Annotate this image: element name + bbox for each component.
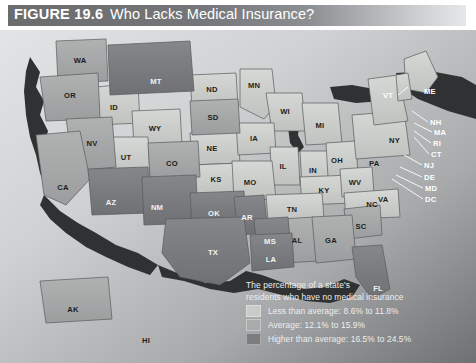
legend-entries: Less than average: 8.6% to 11.8%Average:… xyxy=(246,305,472,345)
map-legend: The percentage of a state's residents wh… xyxy=(246,280,472,345)
figure-container: FIGURE 19.6 Who Lacks Medical Insurance? xyxy=(0,0,476,363)
legend-swatch xyxy=(246,305,261,317)
legend-entry: Less than average: 8.6% to 11.8% xyxy=(246,305,472,317)
figure-number: FIGURE 19.6 xyxy=(14,6,103,22)
legend-label: Average: 12.1% to 15.9% xyxy=(268,320,365,330)
legend-swatch xyxy=(246,333,261,345)
legend-caption-line-1: The percentage of a state's xyxy=(246,280,472,292)
legend-entry: Average: 12.1% to 15.9% xyxy=(246,319,472,331)
legend-entry: Higher than average: 16.5% to 24.5% xyxy=(246,333,472,345)
legend-caption-line-2: residents who have no medical insurance xyxy=(246,292,472,304)
legend-label: Less than average: 8.6% to 11.8% xyxy=(268,306,399,316)
legend-swatch xyxy=(246,319,261,331)
figure-header: FIGURE 19.6 Who Lacks Medical Insurance? xyxy=(0,0,476,30)
legend-label: Higher than average: 16.5% to 24.5% xyxy=(268,334,411,344)
figure-title: Who Lacks Medical Insurance? xyxy=(110,6,314,22)
